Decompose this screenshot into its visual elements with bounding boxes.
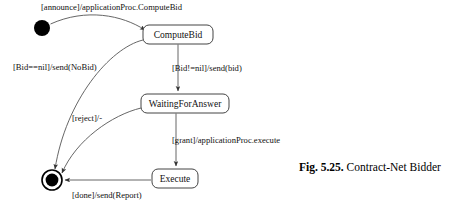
transition-label-reject: [reject]/- — [72, 113, 102, 123]
transition-label-grant: [grant]/applicationProc.execute — [172, 135, 280, 145]
figure-caption-text: Contract-Net Bidder — [347, 161, 441, 173]
initial-state-node[interactable] — [34, 20, 50, 36]
final-state-node[interactable] — [42, 170, 62, 190]
transition-label-bid-nil: [Bid==nil]/send(NoBid) — [13, 62, 97, 72]
figure-caption: Fig. 5.25. Contract-Net Bidder — [299, 160, 451, 174]
state-waitingforanswer[interactable]: WaitingForAnswer — [141, 94, 229, 113]
state-computebid-label: ComputeBid — [154, 30, 203, 40]
figure-number: Fig. 5.25. — [299, 161, 344, 173]
transition-bid-nil[interactable] — [55, 40, 143, 169]
figure-page: ComputeBid WaitingForAnswer Execute [ann… — [0, 0, 459, 204]
state-machine-diagram: ComputeBid WaitingForAnswer Execute [ann… — [0, 0, 310, 204]
state-execute-label: Execute — [160, 174, 191, 184]
transition-label-announce: [announce]/applicationProc.ComputeBid — [41, 2, 183, 12]
transition-label-bid-not-nil: [Bid!=nil]/send(bid) — [172, 63, 242, 73]
state-execute[interactable]: Execute — [152, 169, 198, 188]
state-waitingforanswer-label: WaitingForAnswer — [149, 99, 222, 109]
transition-label-done: [done]/send(Report) — [72, 190, 142, 200]
transition-announce[interactable] — [51, 15, 146, 30]
state-computebid[interactable]: ComputeBid — [143, 25, 213, 44]
